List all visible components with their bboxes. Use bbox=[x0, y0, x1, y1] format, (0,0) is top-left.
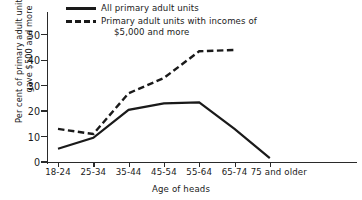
series-line-1 bbox=[58, 102, 270, 158]
plot-area bbox=[0, 0, 362, 200]
x-axis-title: Age of heads bbox=[0, 184, 362, 194]
line-chart: Per cent of primary adult units who gave… bbox=[0, 0, 362, 200]
series-line-2 bbox=[58, 50, 235, 134]
